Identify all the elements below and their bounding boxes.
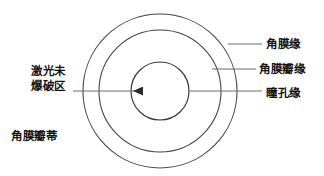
- label-pupil-edge: 瞳孔缘: [266, 86, 301, 101]
- cornea-flap-diagram: 角膜缘 角膜瓣缘 瞳孔缘 激光未 爆破区 角膜瓣蒂: [0, 0, 324, 176]
- label-no-laser-zone: 激光未 爆破区: [31, 64, 66, 94]
- label-limbus: 角膜缘: [266, 37, 301, 52]
- label-corneal-flap-edge: 角膜瓣缘: [259, 62, 305, 77]
- label-no-laser-zone-line2: 爆破区: [31, 79, 66, 94]
- label-no-laser-zone-line1: 激光未: [31, 64, 66, 78]
- label-corneal-flap-hinge: 角膜瓣蒂: [11, 129, 57, 144]
